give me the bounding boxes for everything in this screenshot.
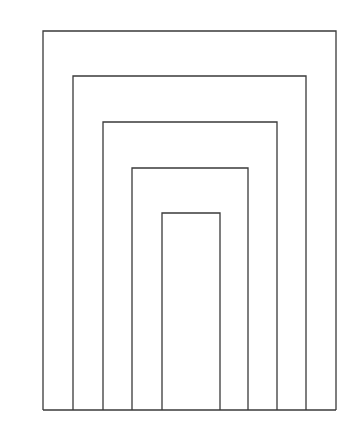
nested-rectangles-diagram [0,0,362,433]
nested-rectangle-2 [73,76,306,410]
nested-rectangle-5 [162,213,220,410]
nested-rectangle-4 [132,168,248,410]
nested-rectangle-1 [43,31,336,410]
nested-rectangle-3 [103,122,277,410]
